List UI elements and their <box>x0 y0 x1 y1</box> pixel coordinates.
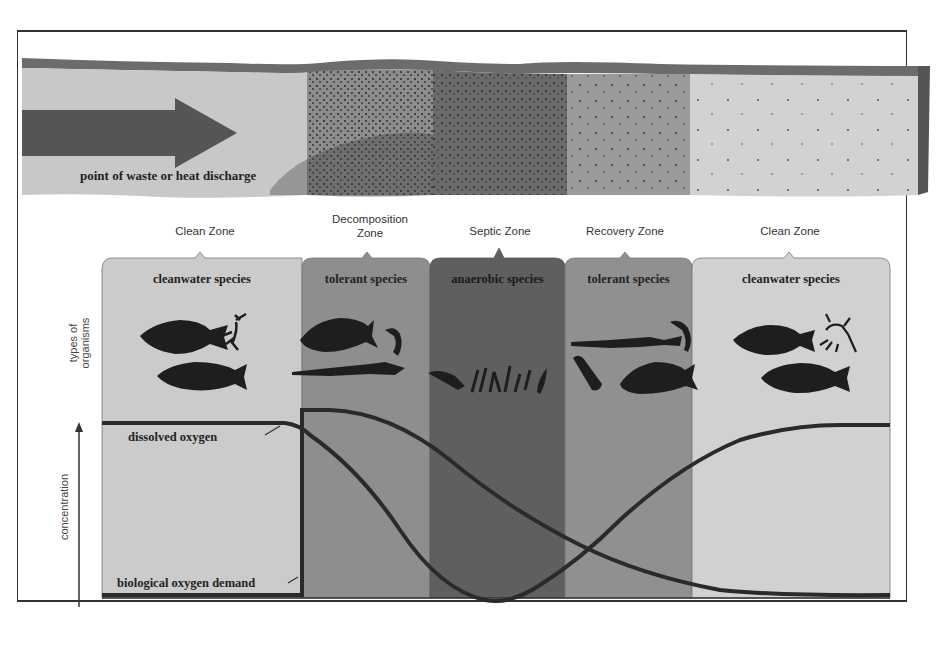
discharge-label: point of waste or heat discharge <box>80 168 256 184</box>
species-label-tolerant-2: tolerant species <box>565 272 692 287</box>
zone-label-decomposition: Decomposition Zone <box>310 212 430 240</box>
bod-label: biological oxygen demand <box>117 576 255 591</box>
zone-label-recovery: Recovery Zone <box>570 224 680 238</box>
species-label-cleanwater-1: cleanwater species <box>102 272 302 287</box>
zone-diagram-graphics <box>0 0 950 647</box>
zone-label-septic: Septic Zone <box>445 224 555 238</box>
axis-label-concentration: concentration <box>58 462 72 552</box>
dissolved-oxygen-label: dissolved oxygen <box>128 430 217 445</box>
axis-label-organisms: types of organisms <box>67 308 93 378</box>
concentration-axis-arrow <box>75 422 83 607</box>
species-label-tolerant-1: tolerant species <box>302 272 430 287</box>
species-label-anaerobic: anaerobic species <box>430 272 565 287</box>
zone-label-clean-1: Clean Zone <box>150 224 260 238</box>
zone-label-clean-2: Clean Zone <box>735 224 845 238</box>
species-label-cleanwater-2: cleanwater species <box>692 272 890 287</box>
